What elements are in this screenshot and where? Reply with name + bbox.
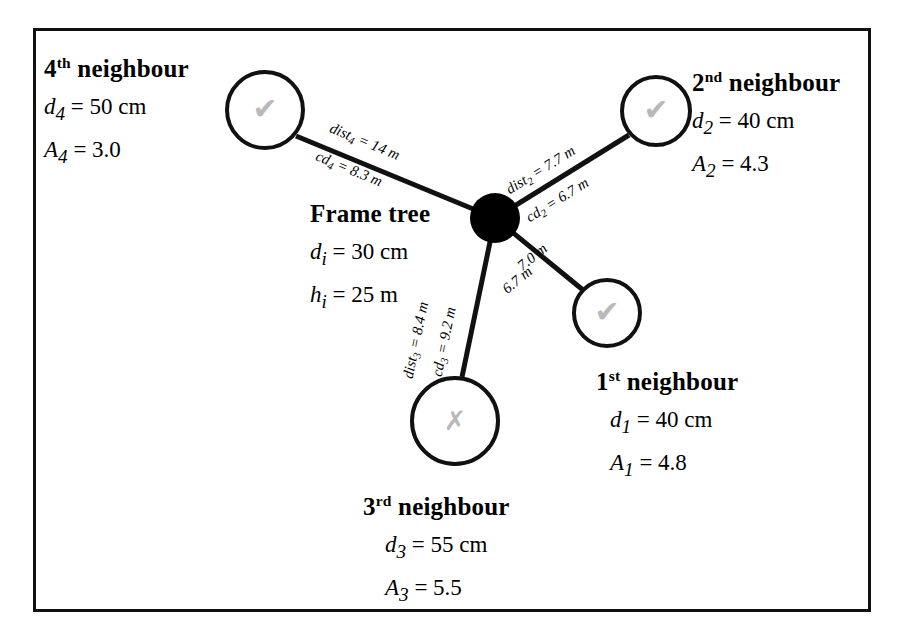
neighbour-1-title: 1st neighbour xyxy=(596,367,738,397)
node-neighbour-4[interactable]: ✔ xyxy=(225,70,305,150)
neighbour-4-d-sub-text: 4 xyxy=(56,103,66,124)
node-neighbour-2[interactable]: ✔ xyxy=(620,75,692,147)
neighbour-4-title-ordinal: th xyxy=(57,54,71,71)
neighbour-2-d-value: = 40 cm xyxy=(719,108,795,133)
neighbour-2-title-rest: neighbour xyxy=(722,69,840,96)
label-block-neighbour-4: 4th neighbour d4 = 50 cm A4 = 3.0 xyxy=(44,54,189,171)
neighbour-4-line-a: A4 = 3.0 xyxy=(44,133,189,170)
neighbour-4-line-d: d4 = 50 cm xyxy=(44,90,189,127)
neighbour-3-d-symbol: d xyxy=(385,532,397,557)
neighbour-3-line-d: d3 = 55 cm xyxy=(385,528,510,565)
neighbour-2-title-ordinal: nd xyxy=(705,68,723,85)
check-icon: ✔ xyxy=(252,94,277,124)
check-icon: ✔ xyxy=(643,95,668,125)
label-block-frame-tree: Frame tree di = 30 cm hi = 25 m xyxy=(310,200,430,316)
frame-tree-h-sub-text: i xyxy=(322,291,327,312)
neighbour-2-a-sub: 2 xyxy=(706,160,716,181)
neighbour-4-a-sub-text: 4 xyxy=(58,146,68,167)
label-block-neighbour-1: 1st neighbour d1 = 40 cm A1 = 4.8 xyxy=(596,367,738,484)
neighbour-3-title: 3rd neighbour xyxy=(363,492,510,522)
neighbour-3-title-rest: neighbour xyxy=(392,493,510,520)
frame-tree-h-sub: i xyxy=(322,291,327,312)
neighbour-4-title-number: 4 xyxy=(44,55,57,82)
neighbour-2-title: 2nd neighbour xyxy=(692,68,840,98)
neighbour-1-line-a: A1 = 4.8 xyxy=(610,446,738,483)
neighbour-1-a-sub-text: 1 xyxy=(624,459,634,480)
frame-tree-d-value: = 30 cm xyxy=(333,239,409,264)
neighbour-2-line-a: A2 = 4.3 xyxy=(692,147,840,184)
neighbour-1-title-number: 1 xyxy=(596,368,609,395)
neighbour-1-d-value: = 40 cm xyxy=(637,407,713,432)
neighbour-4-d-value: = 50 cm xyxy=(71,94,147,119)
neighbour-2-a-symbol: A xyxy=(692,151,706,176)
node-neighbour-1[interactable]: ✔ xyxy=(572,278,642,348)
neighbour-3-d-sub: 3 xyxy=(397,541,407,562)
neighbour-1-d-sub: 1 xyxy=(622,416,632,437)
figure-canvas: ✔ ✔ ✔ ✗ dist4 = 14 m cd4 = 8.3 m dist2 =… xyxy=(0,0,903,641)
check-icon: ✔ xyxy=(594,297,619,327)
neighbour-3-title-number: 3 xyxy=(363,493,376,520)
neighbour-3-d-sub-text: 3 xyxy=(397,541,407,562)
neighbour-3-d-value: = 55 cm xyxy=(412,532,488,557)
neighbour-1-title-rest: neighbour xyxy=(620,368,738,395)
neighbour-1-line-d: d1 = 40 cm xyxy=(610,403,738,440)
neighbour-2-title-number: 2 xyxy=(692,69,705,96)
neighbour-3-line-a: A3 = 5.5 xyxy=(385,571,510,608)
neighbour-2-a-value: = 4.3 xyxy=(721,151,768,176)
neighbour-1-a-symbol: A xyxy=(610,450,624,475)
neighbour-3-a-value: = 5.5 xyxy=(414,575,461,600)
neighbour-4-title: 4th neighbour xyxy=(44,54,189,84)
frame-tree-line-h: hi = 25 m xyxy=(310,278,430,315)
neighbour-4-d-symbol: d xyxy=(44,94,56,119)
neighbour-4-a-symbol: A xyxy=(44,137,58,162)
neighbour-2-a-sub-text: 2 xyxy=(706,160,716,181)
frame-tree-h-symbol: h xyxy=(310,282,322,307)
node-neighbour-3[interactable]: ✗ xyxy=(410,376,500,466)
node-frame-tree[interactable] xyxy=(470,193,520,243)
frame-tree-d-sub-text: i xyxy=(322,247,327,268)
neighbour-1-a-value: = 4.8 xyxy=(639,450,686,475)
neighbour-1-title-ordinal: st xyxy=(609,367,621,384)
frame-tree-title: Frame tree xyxy=(310,200,430,229)
neighbour-3-a-symbol: A xyxy=(385,575,399,600)
neighbour-1-a-sub: 1 xyxy=(624,459,634,480)
frame-tree-d-sub: i xyxy=(322,247,327,268)
label-block-neighbour-2: 2nd neighbour d2 = 40 cm A2 = 4.3 xyxy=(692,68,840,185)
label-block-neighbour-3: 3rd neighbour d3 = 55 cm A3 = 5.5 xyxy=(363,492,510,609)
neighbour-3-title-ordinal: rd xyxy=(376,492,392,509)
cross-icon: ✗ xyxy=(444,407,467,434)
neighbour-1-d-sub-text: 1 xyxy=(622,416,632,437)
neighbour-4-a-value: = 3.0 xyxy=(73,137,120,162)
frame-tree-line-d: di = 30 cm xyxy=(310,235,430,272)
neighbour-1-d-symbol: d xyxy=(610,407,622,432)
neighbour-4-a-sub: 4 xyxy=(58,146,68,167)
neighbour-2-d-sub-text: 2 xyxy=(704,117,714,138)
neighbour-2-line-d: d2 = 40 cm xyxy=(692,104,840,141)
edge-label-dist3-prefix: dist xyxy=(400,355,420,379)
neighbour-2-d-symbol: d xyxy=(692,108,704,133)
frame-tree-h-value: = 25 m xyxy=(333,282,398,307)
neighbour-4-d-sub: 4 xyxy=(56,103,66,124)
neighbour-2-d-sub: 2 xyxy=(704,117,714,138)
neighbour-3-a-sub: 3 xyxy=(399,584,409,605)
neighbour-4-title-rest: neighbour xyxy=(71,55,189,82)
frame-tree-d-symbol: d xyxy=(310,239,322,264)
neighbour-3-a-sub-text: 3 xyxy=(399,584,409,605)
